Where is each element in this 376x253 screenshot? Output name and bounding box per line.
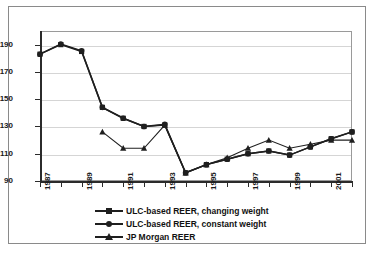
legend-marker-square-icon — [95, 206, 123, 216]
legend-item[interactable]: ULC-based REER, changing weight — [95, 205, 295, 217]
data-point-marker — [245, 151, 251, 157]
series-circle — [37, 41, 355, 175]
data-point-marker — [266, 148, 272, 154]
chart-legend: ULC-based REER, changing weightULC-based… — [95, 205, 295, 244]
legend-item[interactable]: ULC-based REER, constant weight — [95, 218, 295, 230]
legend-label: JP Morgan REER — [126, 232, 195, 242]
legend-label: ULC-based REER, constant weight — [126, 219, 266, 229]
legend-marker-triangle-icon — [95, 232, 123, 242]
data-point-marker — [100, 105, 106, 111]
series-triangle — [99, 122, 355, 176]
legend-marker-circle-icon — [95, 219, 123, 229]
data-point-marker — [120, 115, 126, 121]
chart-figure: 90110130150170190 1987198919911993199519… — [8, 6, 366, 244]
data-point-marker — [141, 124, 147, 130]
series-line — [102, 125, 352, 173]
data-point-marker — [37, 51, 43, 57]
legend-label: ULC-based REER, changing weight — [126, 206, 269, 216]
legend-item[interactable]: JP Morgan REER — [95, 231, 295, 243]
data-point-marker — [58, 41, 64, 47]
series-line — [40, 44, 352, 173]
data-point-marker — [266, 137, 272, 143]
data-point-marker — [99, 129, 105, 135]
data-point-marker — [349, 129, 355, 135]
data-point-marker — [287, 152, 293, 158]
data-point-marker — [79, 48, 85, 54]
